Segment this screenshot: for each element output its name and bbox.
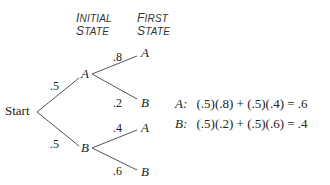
prob-a-a: .8 [113,50,122,65]
node-first-a-from-b: A [141,120,149,136]
equation-b-expr: (.5)(.2) + (.5)(.6) = .4 [197,116,308,131]
node-initial-a: A [81,66,89,82]
header-initial-state: INITIAL STATE [76,12,112,38]
prob-start-b: .5 [50,137,59,152]
equation-a-state: A: [175,96,187,111]
equation-a-expr: (.5)(.8) + (.5)(.4) = .6 [197,96,308,111]
node-initial-b: B [81,140,89,156]
node-first-b-from-a: B [141,95,149,111]
equation-b: B: (.5)(.2) + (.5)(.6) = .4 [175,116,308,132]
prob-a-b: .2 [113,96,122,111]
start-node: Start [5,103,30,119]
prob-b-a: .4 [113,121,122,136]
header-first-state: FIRST STATE [137,12,170,38]
prob-b-b: .6 [113,164,122,179]
node-first-a-from-a: A [141,45,149,61]
equation-b-state: B: [175,116,187,131]
prob-start-a: .5 [50,79,59,94]
node-first-b-from-b: B [141,164,149,180]
equation-a: A: (.5)(.8) + (.5)(.4) = .6 [175,96,308,112]
